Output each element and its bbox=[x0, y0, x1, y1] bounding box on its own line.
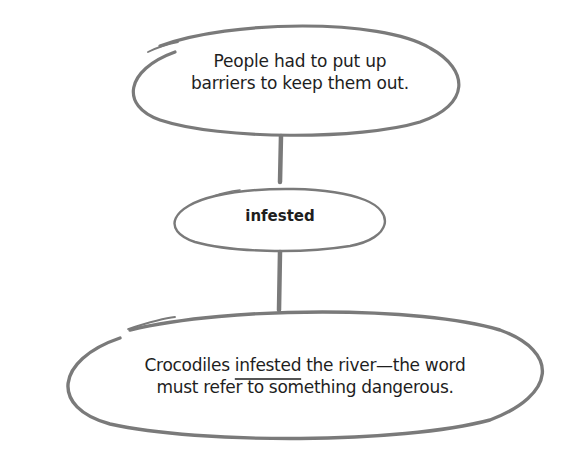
bottom-node-line-2: must refer to something dangerous. bbox=[75, 376, 535, 398]
middle-node: infested bbox=[175, 207, 385, 227]
top-node: People had to put up barriers to keep th… bbox=[150, 50, 450, 94]
bottom-node-line-1: Crocodiles infested the river—the word bbox=[75, 354, 535, 376]
bottom-node-text-after: the river—the word bbox=[301, 355, 465, 375]
connector-top-middle bbox=[280, 136, 281, 182]
top-node-line-2: barriers to keep them out. bbox=[150, 72, 450, 94]
connector-middle-bottom bbox=[279, 252, 280, 310]
bottom-node: Crocodiles infested the river—the word m… bbox=[75, 354, 535, 398]
bottom-node-text-before: Crocodiles bbox=[145, 355, 235, 375]
top-node-line-1: People had to put up bbox=[150, 50, 450, 72]
middle-node-label: infested bbox=[245, 207, 315, 225]
underlined-word: infested bbox=[235, 355, 301, 375]
